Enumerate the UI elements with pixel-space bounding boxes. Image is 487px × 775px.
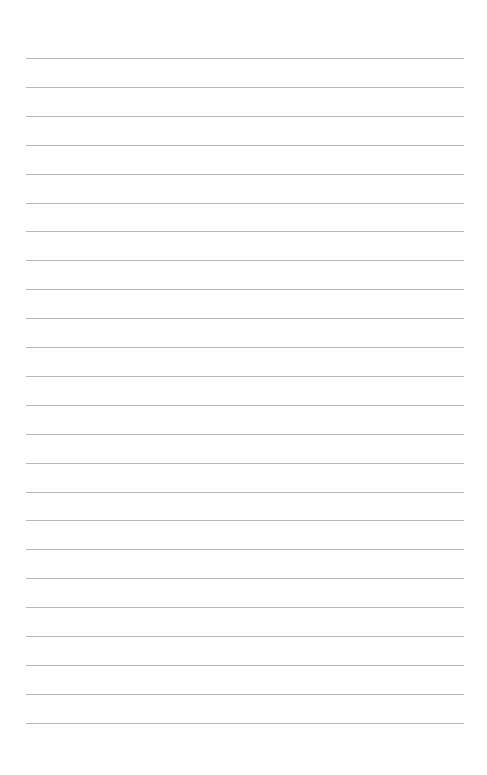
ruled-line	[26, 463, 464, 464]
ruled-line	[26, 347, 464, 348]
ruled-line	[26, 58, 464, 59]
ruled-line	[26, 231, 464, 232]
ruled-line	[26, 549, 464, 550]
ruled-line	[26, 578, 464, 579]
ruled-line	[26, 492, 464, 493]
ruled-line	[26, 405, 464, 406]
ruled-line	[26, 434, 464, 435]
ruled-line	[26, 318, 464, 319]
ruled-line	[26, 665, 464, 666]
ruled-line	[26, 87, 464, 88]
ruled-line	[26, 116, 464, 117]
ruled-line	[26, 607, 464, 608]
ruled-line	[26, 636, 464, 637]
ruled-line	[26, 723, 464, 724]
ruled-line	[26, 376, 464, 377]
ruled-line	[26, 520, 464, 521]
ruled-line	[26, 174, 464, 175]
ruled-line	[26, 260, 464, 261]
lined-paper-page	[0, 0, 487, 775]
ruled-line	[26, 145, 464, 146]
ruled-line	[26, 203, 464, 204]
ruled-line	[26, 694, 464, 695]
ruled-line	[26, 289, 464, 290]
